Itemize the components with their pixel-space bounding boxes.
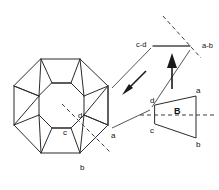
trapezoid-label-a: a bbox=[196, 86, 201, 95]
spoke-5 bbox=[71, 128, 80, 153]
figure-canvas: d c a b B a b c d c-d a-b bbox=[0, 0, 219, 190]
projection-diagram bbox=[153, 16, 201, 58]
spoke-12 bbox=[84, 115, 108, 125]
spoke-6 bbox=[41, 128, 52, 153]
projection-label-ab: a-b bbox=[202, 41, 213, 50]
trapezoid-label-b: b bbox=[196, 140, 201, 149]
spoke-15 bbox=[14, 96, 39, 125]
trapezoid-label-c: c bbox=[150, 126, 154, 135]
connector-projection-to-octagon bbox=[112, 48, 151, 88]
spoke-16 bbox=[14, 86, 39, 96]
octagon-label-b: b bbox=[80, 163, 85, 172]
spoke-9 bbox=[39, 59, 41, 96]
spoke-14 bbox=[39, 115, 41, 153]
spoke-13 bbox=[80, 115, 84, 153]
outer-octagon bbox=[14, 59, 108, 153]
octagon-rosette bbox=[14, 59, 110, 153]
spoke-10 bbox=[80, 59, 84, 96]
projection-dashed-line bbox=[163, 16, 201, 58]
octagon-label-d: d bbox=[78, 111, 82, 120]
spoke-1 bbox=[41, 59, 52, 83]
octagon-label-a: a bbox=[111, 131, 116, 140]
trapezoid-B bbox=[155, 96, 196, 138]
trapezoid-interior-label: B bbox=[174, 106, 181, 116]
spoke-2 bbox=[71, 59, 80, 83]
connector-trapezoid-to-octagon bbox=[112, 110, 150, 128]
spoke-11 bbox=[84, 86, 108, 115]
diagram-svg: d c a b B a b c d c-d a-b bbox=[0, 0, 219, 190]
projection-label-cd: c-d bbox=[136, 40, 146, 49]
octagon-label-c: c bbox=[63, 128, 67, 137]
inner-octagon bbox=[39, 83, 84, 128]
